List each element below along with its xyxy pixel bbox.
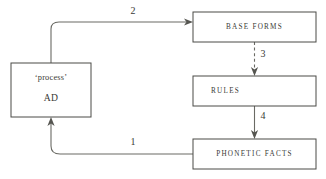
node-rules-label: RULES <box>211 87 240 95</box>
diagram-canvas: 2 3 4 1 ‘process’ AD BASE FO <box>0 0 326 179</box>
edge-1-label: 1 <box>131 136 136 147</box>
edge-2-path <box>51 22 186 63</box>
edge-3-label: 3 <box>261 48 266 59</box>
edge-3-arrowhead-icon <box>251 67 258 76</box>
node-ad-rect <box>11 63 91 117</box>
node-ad[interactable]: ‘process’ AD <box>11 63 91 117</box>
node-phonetic-facts-label: PHONETIC FACTS <box>216 150 293 158</box>
edge-2-label: 2 <box>131 5 136 16</box>
node-base-forms[interactable]: BASE FORMS <box>193 12 316 42</box>
edge-1-group: 1 <box>47 117 193 154</box>
diagram-root: 2 3 4 1 ‘process’ AD BASE FO <box>0 0 326 179</box>
node-ad-line1: ‘process’ <box>35 73 68 82</box>
edge-4-group: 4 <box>251 106 266 139</box>
edge-2-group: 2 <box>51 5 193 63</box>
edge-3-group: 3 <box>251 42 266 76</box>
edge-4-label: 4 <box>261 110 266 121</box>
node-ad-line2: AD <box>44 92 58 103</box>
node-rules[interactable]: RULES <box>193 76 316 106</box>
edge-1-path <box>51 123 193 154</box>
node-phonetic-facts[interactable]: PHONETIC FACTS <box>193 139 316 169</box>
node-base-forms-label: BASE FORMS <box>226 23 283 31</box>
